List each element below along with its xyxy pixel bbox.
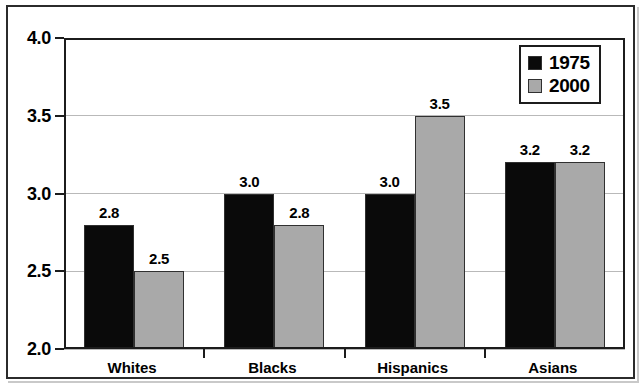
gridline xyxy=(64,115,625,116)
bar-value-label: 2.5 xyxy=(134,250,184,267)
legend-label: 2000 xyxy=(549,76,590,95)
y-axis-tick-label: 4.0 xyxy=(27,28,51,49)
plot-border-right xyxy=(623,38,625,349)
y-axis-tick-label: 3.5 xyxy=(27,105,51,126)
plot-border-top xyxy=(64,38,625,40)
bar-asians-2000 xyxy=(555,162,605,349)
bar-value-label: 3.2 xyxy=(505,141,555,158)
y-axis-line xyxy=(64,38,66,349)
y-axis-tick-label: 2.5 xyxy=(27,261,51,282)
x-axis-tick-mark xyxy=(203,349,205,358)
black-square-icon xyxy=(528,56,542,70)
bar-value-label: 3.2 xyxy=(555,141,605,158)
x-axis-category-label: Asians xyxy=(483,359,623,376)
bar-hispanics-2000 xyxy=(415,116,465,349)
bar-value-label: 2.8 xyxy=(274,204,324,221)
legend-entry-2000: 2000 xyxy=(528,74,590,97)
y-axis-tick-mark xyxy=(55,348,64,350)
x-axis-category-label: Hispanics xyxy=(343,359,483,376)
y-axis-tick-mark xyxy=(55,37,64,39)
chart-frame: 2.02.53.03.54.0 2.82.53.02.83.03.53.23.2… xyxy=(6,5,635,379)
bar-whites-1975 xyxy=(84,225,134,349)
y-axis-tick-mark xyxy=(55,115,64,117)
bar-asians-1975 xyxy=(505,162,555,349)
y-axis-tick-label: 3.0 xyxy=(27,183,51,204)
x-axis-category-label: Whites xyxy=(62,359,202,376)
bar-value-label: 3.0 xyxy=(224,173,274,190)
legend-label: 1975 xyxy=(549,53,590,72)
bar-value-label: 3.0 xyxy=(365,173,415,190)
y-axis-tick-mark xyxy=(55,193,64,195)
y-axis-tick-label: 2.0 xyxy=(27,339,51,360)
x-axis-tick-mark xyxy=(484,349,486,358)
bar-hispanics-1975 xyxy=(365,194,415,350)
y-axis-tick-mark xyxy=(55,270,64,272)
legend-entry-1975: 1975 xyxy=(528,51,590,74)
bar-blacks-2000 xyxy=(274,225,324,349)
bar-value-label: 3.5 xyxy=(415,95,465,112)
x-axis-category-label: Blacks xyxy=(202,359,342,376)
bar-whites-2000 xyxy=(134,271,184,349)
bar-blacks-1975 xyxy=(224,194,274,350)
bar-value-label: 2.8 xyxy=(84,204,134,221)
x-axis-tick-mark xyxy=(344,349,346,358)
chart-legend: 1975 2000 xyxy=(519,45,601,104)
gray-square-icon xyxy=(528,79,542,93)
